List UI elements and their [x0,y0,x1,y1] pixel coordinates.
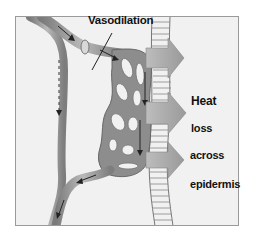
label-loss: loss [191,122,212,134]
label-heat: Heat [191,94,216,108]
label-across: across [190,149,224,161]
shunt-vessel [30,17,64,226]
precapillary-sphincter [81,40,89,54]
heat-arrows [146,38,186,178]
vasodilation-illustration [0,0,262,246]
heat-arrow-3 [146,142,184,178]
label-epidermis: epidermis [190,178,240,190]
label-vasodilation: Vasodilation [88,14,153,26]
dilated-capillary-bed [98,49,151,177]
